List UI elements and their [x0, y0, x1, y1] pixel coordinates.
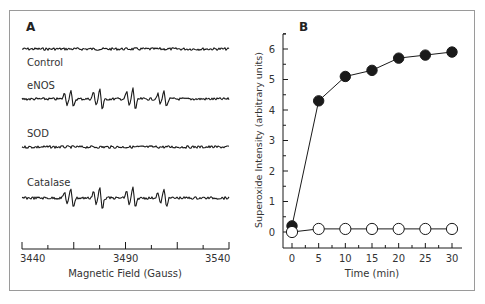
open-circle-marker [340, 223, 351, 234]
y-tick-label: 3 [269, 135, 275, 146]
x-tick-label-b: 10 [339, 253, 352, 264]
y-tick-label: 2 [269, 166, 275, 177]
panel-a-letter: A [26, 20, 36, 34]
series-line [292, 52, 452, 226]
filled-circle-marker [367, 65, 377, 75]
y-tick-label: 6 [269, 44, 275, 55]
filled-circle-marker [420, 50, 430, 60]
epr-trace-sod [22, 146, 229, 149]
series-b [286, 47, 457, 238]
filled-circle-marker [340, 71, 350, 81]
open-circle-marker [313, 223, 324, 234]
x-tick-label-b: 20 [392, 253, 405, 264]
axes-b: 0123456051015202530 [269, 34, 462, 264]
open-circle-marker [286, 226, 297, 237]
x-axis-magnetic-field [22, 242, 229, 249]
x-tick-label-3540: 3540 [205, 253, 230, 264]
panel-b-letter: B [299, 20, 308, 34]
trace-label-enos: eNOS [27, 80, 55, 91]
x-axis-label-a: Magnetic Field (Gauss) [68, 268, 182, 279]
filled-circle-marker [447, 47, 457, 57]
filled-circle-marker [313, 96, 323, 106]
y-tick-label: 0 [269, 227, 275, 238]
epr-trace-catalase [22, 187, 229, 208]
x-tick-label-b: 5 [315, 253, 321, 264]
open-circle-marker [420, 223, 431, 234]
y-tick-label: 1 [269, 196, 275, 207]
panel-b: B 0123456051015202530 Superoxide Intensi… [253, 20, 462, 279]
trace-label-sod: SOD [27, 128, 49, 139]
panel-a: A Control eNOS SOD Catalase 3440 3490 35… [20, 20, 230, 279]
x-tick-label-b: 30 [446, 253, 459, 264]
open-circle-marker [446, 223, 457, 234]
figure-canvas: A Control eNOS SOD Catalase 3440 3490 35… [0, 0, 485, 304]
filled-circle-marker [393, 53, 403, 63]
x-tick-label-3490: 3490 [113, 253, 138, 264]
y-tick-label: 4 [269, 105, 275, 116]
epr-trace-control [22, 48, 229, 51]
trace-label-control: Control [27, 57, 63, 68]
x-tick-label-b: 15 [366, 253, 379, 264]
open-circle-marker [366, 223, 377, 234]
x-tick-label-b: 25 [419, 253, 432, 264]
x-axis-label-b: Time (min) [344, 268, 399, 279]
trace-label-catalase: Catalase [27, 177, 70, 188]
x-tick-label-3440: 3440 [20, 253, 45, 264]
x-tick-label-b: 0 [289, 253, 295, 264]
y-axis-label-b: Superoxide Intensity (arbitrary units) [253, 52, 264, 228]
epr-trace-enos [22, 88, 229, 109]
y-tick-label: 5 [269, 74, 275, 85]
open-circle-marker [393, 223, 404, 234]
